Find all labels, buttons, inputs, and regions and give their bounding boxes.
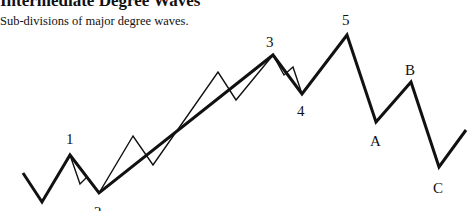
wave-label-c: C [433, 180, 443, 196]
wave-label-b: B [405, 62, 415, 78]
wave-label-4: 4 [297, 103, 305, 119]
wave-label-3: 3 [266, 34, 274, 50]
major-wave-line [23, 35, 466, 202]
wave-label-5: 5 [342, 12, 350, 28]
wave-diagram: 12345ABC [0, 0, 469, 211]
wave-label-a: A [370, 133, 381, 149]
wave-label-2: 2 [94, 204, 102, 211]
wave-label-1: 1 [66, 131, 74, 147]
